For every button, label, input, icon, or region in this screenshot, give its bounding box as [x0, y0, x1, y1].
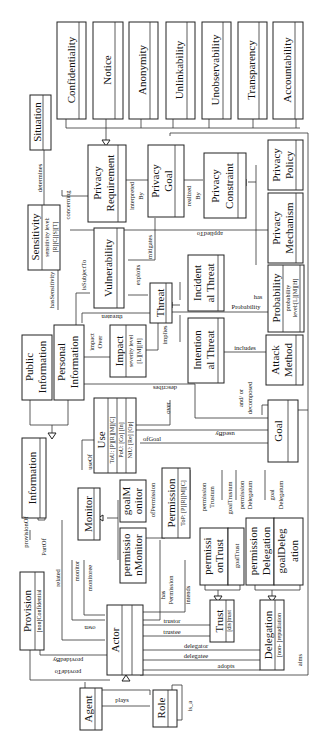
label-provide-to: provideTo: [55, 669, 82, 676]
label-interpreted-by: interpreted: [128, 181, 135, 210]
label-related: related: [54, 568, 61, 586]
class-name: permissi: [201, 537, 213, 574]
class-name: Situation: [31, 102, 43, 142]
class-impact: Impactseverity level[L][M][H]: [110, 325, 146, 377]
class-name: onitor: [132, 488, 144, 515]
label-describes: describes: [152, 385, 177, 392]
label-implies: implies: [161, 325, 168, 345]
class-name: goalM: [120, 486, 132, 515]
label-goal-delegatum: goal: [268, 489, 275, 500]
class-name: Use: [95, 431, 107, 448]
class-public-information: PublicInformation: [22, 335, 52, 400]
class-name: Privacy: [149, 164, 161, 198]
label-permission-delegatum: Delegatum: [246, 481, 253, 510]
class-name: Public: [23, 353, 35, 381]
class-notice: Notice: [93, 22, 123, 119]
label-has-probability: has: [254, 293, 263, 300]
class-sensitivity: Sensitivitysensitivity level:[R][C][S][T…: [28, 205, 60, 270]
class-attack-method: AttackMethod: [266, 335, 303, 385]
class-name: permissio: [120, 533, 132, 576]
class-attribute: ToU: [P][R][M][C]: [109, 417, 116, 463]
class-name: Attack: [269, 345, 281, 375]
class-name: Unobservability: [209, 34, 221, 105]
class-information: Information: [22, 438, 46, 518]
class-permission-monitor: permissionMonitor: [120, 528, 146, 583]
class-name: Goal: [162, 170, 174, 191]
class-transparency: Transparency: [238, 22, 267, 119]
label-permission-delegatum: permission: [238, 480, 245, 509]
class-name: Constraint: [223, 163, 235, 209]
label-has-permission: Permission: [167, 575, 174, 605]
class-trust: Trust[dis]trust: [210, 600, 234, 642]
class-privacy-policy: PrivacyPolicy: [268, 140, 303, 190]
label-of-permission: ofPermission: [149, 482, 156, 517]
label-goal-delegatum: Delegatum: [277, 481, 284, 510]
class-goal-monitor: goalMonitor: [120, 480, 146, 522]
label-used-by: usedBy: [215, 431, 235, 438]
class-attribute: [L][M][H]: [136, 338, 143, 363]
label-and-or-decomposed: decomposed: [246, 381, 253, 414]
class-attribute: [R][C][S][T]: [52, 222, 59, 253]
label-provided-by: providedBy: [52, 657, 83, 664]
class-name: al Threat: [204, 330, 216, 369]
class-anonymity: Anonymity: [129, 22, 158, 119]
class-situation: Situation: [30, 95, 51, 150]
class-name: Personal: [55, 343, 67, 381]
label-use-of: useOf: [86, 453, 93, 469]
class-probability: Probabilityprobabilitylevel:[L][M][H]: [268, 265, 304, 332]
label-monitoree: monitoree: [86, 565, 93, 591]
class-provision: Provision[non]Confidential: [20, 572, 44, 650]
label-impact-over: impact: [88, 333, 95, 351]
class-delegation: Delegation[non- ]repudiation: [260, 600, 284, 670]
class-attribute: level:[L][M][H]: [292, 279, 299, 318]
label-provision-of: provisionOf: [22, 515, 29, 547]
class-vulnerability: Vulnerability: [94, 228, 124, 308]
label-includes: includes: [234, 344, 256, 351]
class-name: Mechanism: [283, 202, 295, 254]
class-name: goalDeleg: [275, 528, 287, 574]
class-name: Monitor: [82, 496, 94, 532]
label-monitor: monitor: [73, 560, 80, 581]
class-name: Privacy: [270, 211, 282, 245]
class-privacy-constraint: PrivacyConstraint: [204, 153, 246, 218]
class-accountability: Accountability: [273, 22, 303, 119]
class-name: Incident: [191, 265, 203, 301]
label-realized-by: realized: [185, 185, 192, 206]
class-name: Privacy: [91, 166, 103, 200]
class-attribute: [non]Confidential: [36, 589, 43, 632]
class-name: Transparency: [245, 40, 257, 100]
label-mitigates: mitigates: [146, 235, 153, 259]
class-name: Accountability: [281, 37, 293, 103]
label-part-of: PartOf: [40, 538, 47, 556]
class-name: Unlinkability: [173, 40, 185, 99]
class-name: Sensitivity: [29, 213, 41, 261]
class-actor: Actor: [107, 605, 143, 675]
class-personal-information: PersonalInformation: [54, 325, 84, 400]
label-of-goal: ofGoal: [143, 435, 161, 442]
class-name: ation: [288, 540, 300, 562]
label-concerning: concerning: [64, 190, 71, 220]
class-permission-trust: permissionTrust: [200, 528, 228, 585]
class-monitor: Monitor: [78, 488, 100, 540]
class-attribute: sensitivity level:: [44, 217, 50, 257]
class-name: Goal: [272, 420, 284, 441]
label-exploits: exploits: [134, 264, 141, 285]
class-name: Information: [26, 451, 38, 504]
class-confidentiality: Confidentiality: [57, 22, 86, 119]
class-name: Impact: [113, 336, 125, 367]
class-name: Probability: [270, 273, 282, 322]
class-name: Delegation: [260, 526, 272, 575]
class-name: Actor: [109, 627, 121, 652]
label-over: over: [164, 401, 171, 413]
class-name: Vulnerability: [102, 239, 114, 297]
class-name: Policy: [283, 150, 295, 179]
class-name: Delegation: [262, 610, 274, 659]
class-goal: Goal: [268, 400, 298, 462]
class-name: Information: [68, 335, 80, 388]
privacy-principles: Confidentiality Notice Anonymity Unlinka…: [57, 22, 303, 119]
class-name: nMonitor: [132, 534, 144, 576]
label-and-or-decomposed: and/ or: [237, 388, 244, 407]
class-unlinkability: Unlinkability: [166, 22, 195, 119]
class-threat: Threat: [150, 283, 172, 323]
label-adopts: adopts: [218, 662, 235, 669]
